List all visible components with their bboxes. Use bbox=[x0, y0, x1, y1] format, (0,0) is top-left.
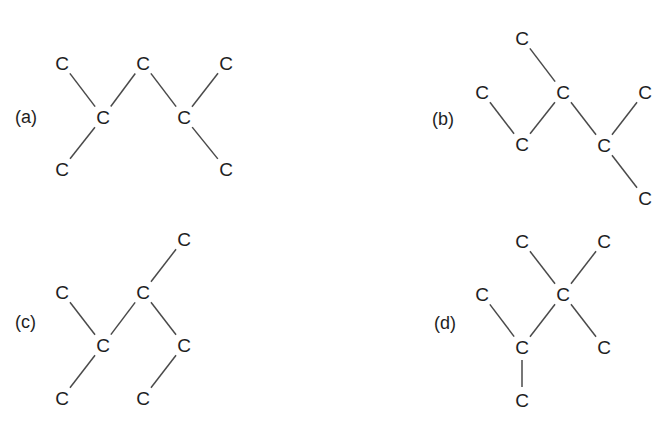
carbon-atom: C bbox=[556, 83, 570, 102]
structure-label-c: (c) bbox=[15, 313, 36, 331]
bond-line bbox=[151, 249, 176, 281]
bond-line bbox=[530, 304, 555, 336]
bond-line bbox=[70, 127, 95, 159]
carbon-atom: C bbox=[556, 285, 570, 304]
bond-line bbox=[192, 73, 218, 106]
carbon-atom: C bbox=[597, 232, 611, 251]
carbon-atom: C bbox=[55, 160, 69, 179]
carbon-atom: C bbox=[96, 108, 110, 127]
carbon-atom: C bbox=[219, 160, 233, 179]
bonds-layer bbox=[0, 0, 670, 429]
bond-line bbox=[530, 251, 555, 283]
bond-line bbox=[151, 73, 176, 106]
carbon-atom: C bbox=[136, 283, 150, 302]
carbon-atom: C bbox=[475, 83, 489, 102]
structure-a-bonds bbox=[70, 73, 218, 159]
bond-line bbox=[111, 73, 136, 106]
bond-line bbox=[111, 302, 135, 334]
bond-line bbox=[151, 355, 176, 387]
structure-label-a: (a) bbox=[15, 108, 37, 126]
bond-line bbox=[530, 102, 555, 134]
carbon-atom: C bbox=[55, 389, 69, 408]
bond-line bbox=[192, 127, 218, 159]
carbon-atom: C bbox=[177, 230, 191, 249]
structure-c-bonds bbox=[70, 249, 176, 387]
carbon-atom: C bbox=[177, 108, 191, 127]
bond-line bbox=[490, 102, 514, 133]
structure-label-b: (b) bbox=[432, 110, 454, 128]
carbon-atom: C bbox=[96, 336, 110, 355]
carbon-atom: C bbox=[136, 389, 150, 408]
bond-line bbox=[151, 302, 176, 334]
diagram-canvas: (a)CCCCCCC(b)CCCCCCC(c)CCCCCCC(d)CCCCCCC bbox=[0, 0, 670, 429]
bond-line bbox=[571, 251, 596, 283]
bond-line bbox=[612, 102, 637, 134]
bond-line bbox=[70, 302, 95, 334]
carbon-atom: C bbox=[597, 338, 611, 357]
structure-label-d: (d) bbox=[434, 314, 456, 332]
bond-line bbox=[571, 304, 596, 336]
bond-line bbox=[571, 102, 596, 134]
carbon-atom: C bbox=[136, 54, 150, 73]
bond-line bbox=[530, 48, 555, 81]
carbon-atom: C bbox=[219, 54, 233, 73]
carbon-atom: C bbox=[515, 338, 529, 357]
carbon-atom: C bbox=[638, 189, 652, 208]
carbon-atom: C bbox=[515, 232, 529, 251]
bond-line bbox=[70, 73, 95, 106]
structure-d-bonds bbox=[490, 251, 596, 387]
carbon-atom: C bbox=[515, 391, 529, 410]
bond-line bbox=[490, 304, 514, 336]
structure-b-bonds bbox=[490, 48, 637, 187]
carbon-atom: C bbox=[515, 135, 529, 154]
carbon-atom: C bbox=[55, 283, 69, 302]
carbon-atom: C bbox=[638, 83, 652, 102]
carbon-atom: C bbox=[177, 336, 191, 355]
carbon-atom: C bbox=[55, 54, 69, 73]
carbon-atom: C bbox=[515, 29, 529, 48]
bond-line bbox=[612, 155, 637, 187]
carbon-atom: C bbox=[597, 136, 611, 155]
bond-line bbox=[70, 355, 95, 387]
carbon-atom: C bbox=[475, 285, 489, 304]
